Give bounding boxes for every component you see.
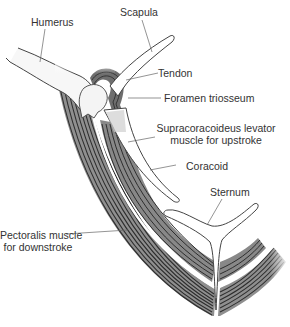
label-supracoracoideus-line1: Supracoracoideus levator (147, 122, 285, 134)
label-sternum: Sternum (210, 186, 250, 198)
scapula-bone (110, 35, 174, 96)
label-foramen-triosseum: Foramen triosseum (164, 92, 254, 104)
label-pectoralis: Pectoralis muscle for downstroke (0, 229, 76, 253)
label-scapula: Scapula (120, 6, 158, 18)
label-tendon: Tendon (158, 67, 192, 79)
label-coracoid: Coracoid (186, 160, 228, 172)
label-humerus: Humerus (31, 16, 74, 28)
label-supracoracoideus-line2: muscle for upstroke (147, 134, 285, 146)
label-pectoralis-line1: Pectoralis muscle (0, 229, 76, 241)
label-supracoracoideus: Supracoracoideus levator muscle for upst… (147, 122, 285, 146)
bird-flight-muscle-diagram (0, 0, 290, 327)
label-pectoralis-line2: for downstroke (0, 241, 76, 253)
